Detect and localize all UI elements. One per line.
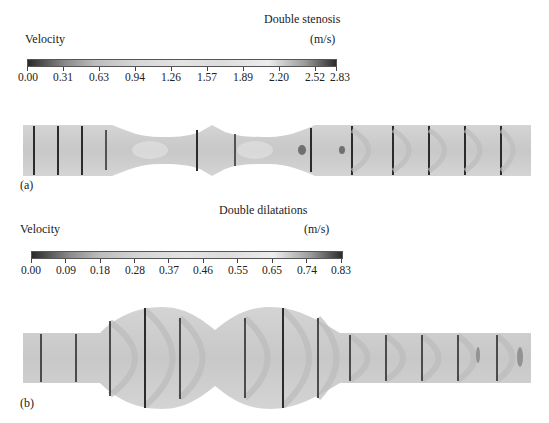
tick-mark <box>341 259 342 263</box>
tick-mark <box>100 259 101 263</box>
tick-label: 0.46 <box>193 264 213 276</box>
dilatation-vessel-shape <box>23 307 531 409</box>
tick-label: 0.00 <box>21 264 41 276</box>
tick-mark <box>134 259 135 263</box>
tick-mark <box>272 259 273 263</box>
panel-b-label: (b) <box>20 396 34 411</box>
tick-label: 0.83 <box>331 264 351 276</box>
panel-b-title: Double dilatations <box>219 203 307 218</box>
tick-label: 0.55 <box>228 264 248 276</box>
tick-label: 0.28 <box>125 264 145 276</box>
panel-b-unit-label: (m/s) <box>304 222 329 237</box>
stenosis-vessel-shape <box>23 125 531 176</box>
tick-label: 0.65 <box>262 264 282 276</box>
panel-a-label: (a) <box>20 178 33 193</box>
tick-mark <box>203 259 204 263</box>
panel-b-colorbar-label: Velocity <box>20 222 60 237</box>
tick-label: 0.09 <box>56 264 76 276</box>
panel-b-colorbar-gradient <box>31 251 343 259</box>
tick-label: 0.37 <box>159 264 179 276</box>
tick-mark <box>31 259 32 263</box>
tick-label: 0.74 <box>297 264 317 276</box>
tick-mark <box>237 259 238 263</box>
tick-label: 0.18 <box>90 264 110 276</box>
tick-mark <box>168 259 169 263</box>
tick-mark <box>306 259 307 263</box>
tick-mark <box>65 259 66 263</box>
